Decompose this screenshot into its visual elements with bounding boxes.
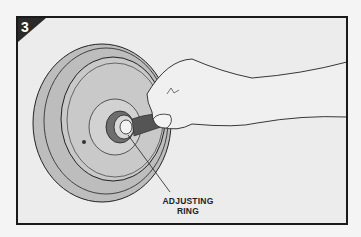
illustration-frame: 3 ADJUSTING RING bbox=[16, 16, 348, 225]
callout-label-line2: RING bbox=[153, 206, 223, 216]
hand bbox=[147, 59, 346, 129]
set-screw bbox=[82, 140, 86, 144]
callout-label-line1: ADJUSTING bbox=[153, 196, 223, 206]
valve-stem-splines bbox=[120, 120, 132, 134]
illustration bbox=[18, 18, 346, 223]
step-number: 3 bbox=[21, 19, 29, 35]
callout-label: ADJUSTING RING bbox=[153, 196, 223, 216]
